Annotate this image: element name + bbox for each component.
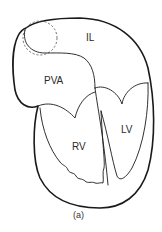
rv-top-arcs bbox=[38, 92, 95, 118]
figure-caption: (a) bbox=[73, 211, 84, 220]
septum-left bbox=[95, 88, 108, 185]
label-pva: PVA bbox=[44, 76, 63, 86]
label-lv: LV bbox=[121, 125, 133, 135]
label-rv: RV bbox=[72, 142, 86, 152]
heart-diagram bbox=[0, 0, 162, 232]
label-il: IL bbox=[86, 33, 94, 43]
lv-top-arcs bbox=[95, 83, 148, 104]
